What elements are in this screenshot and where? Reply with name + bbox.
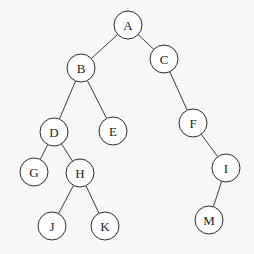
edge-a-b [91, 34, 117, 58]
node-label: E [109, 124, 117, 139]
node-label: B [77, 61, 86, 76]
node-j: J [38, 212, 66, 240]
edge-i-m [213, 181, 221, 206]
node-label: D [49, 125, 58, 140]
node-g: G [20, 158, 48, 186]
node-label: H [75, 166, 84, 181]
node-label: I [224, 161, 228, 176]
nodes: ABCDEFGHIJKM [20, 11, 240, 240]
tree-diagram: ABCDEFGHIJKM [0, 0, 254, 254]
edge-a-c [138, 35, 154, 50]
edge-b-e [87, 80, 106, 118]
edge-h-j [59, 185, 74, 213]
node-b: B [67, 54, 95, 82]
node-label: C [160, 52, 169, 67]
node-c: C [150, 45, 178, 73]
edge-b-d [59, 81, 75, 119]
node-label: K [100, 219, 110, 234]
edge-d-h [61, 144, 72, 161]
node-h: H [66, 159, 94, 187]
node-label: G [29, 165, 38, 180]
edge-d-g [40, 145, 47, 160]
node-i: I [212, 154, 240, 182]
node-a: A [114, 11, 142, 39]
node-f: F [179, 109, 207, 137]
node-d: D [40, 118, 68, 146]
node-e: E [99, 117, 127, 145]
node-label: F [189, 116, 196, 131]
node-label: A [123, 18, 133, 33]
node-k: K [91, 212, 119, 240]
edge-c-f [170, 72, 187, 110]
edge-h-k [86, 186, 99, 214]
node-label: M [203, 213, 215, 228]
edge-f-i [201, 134, 217, 156]
node-m: M [195, 206, 223, 234]
node-label: J [49, 219, 54, 234]
